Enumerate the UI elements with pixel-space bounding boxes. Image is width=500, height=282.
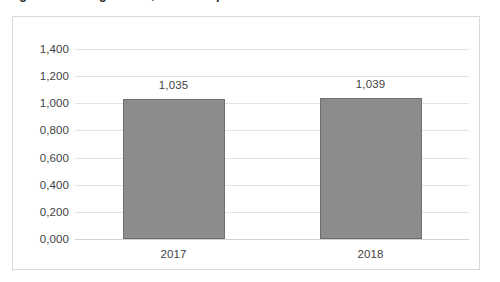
chart-frame: 0,0000,2000,4000,6000,8001,0001,2001,400…: [12, 16, 480, 270]
y-axis-tick-label: 0,000: [13, 233, 69, 245]
bar-value-label-2018: 1,039: [311, 78, 431, 90]
y-axis-tick-label: 0,800: [13, 124, 69, 136]
bar-2018[interactable]: [320, 98, 422, 239]
x-axis-category-label-2018: 2018: [311, 248, 431, 260]
axis-baseline: [75, 239, 469, 240]
y-axis-tick-label: 1,000: [13, 97, 69, 109]
y-axis-tick-label: 0,200: [13, 206, 69, 218]
y-axis-tick-label: 0,600: [13, 152, 69, 164]
bar-2017[interactable]: [123, 99, 225, 239]
x-axis-category-label-2017: 2017: [114, 248, 234, 260]
y-axis-tick-label: 1,400: [13, 43, 69, 55]
bar-value-label-2017: 1,035: [114, 79, 234, 91]
gridline: [75, 76, 469, 77]
chart-screenshot: Figure 1. Average score, 2017 compared t…: [0, 0, 500, 282]
y-axis-tick-label: 1,200: [13, 70, 69, 82]
y-axis-tick-label: 0,400: [13, 179, 69, 191]
plot-area: 0,0000,2000,4000,6000,8001,0001,2001,400…: [13, 17, 481, 271]
figure-caption: Figure 1. Average score, 2017 compared t…: [8, 0, 492, 4]
gridline: [75, 49, 469, 50]
